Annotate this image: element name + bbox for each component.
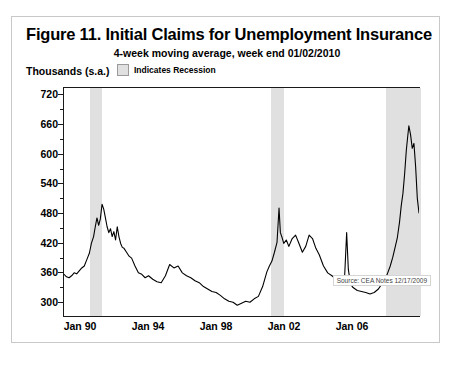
y-axis-tick-label: 300 [40, 296, 58, 308]
y-axis-tick-label: 720 [40, 88, 58, 100]
y-axis-tick-label: 420 [40, 237, 58, 249]
source-note: Source: CEA Notes 12/17/2009 [333, 275, 431, 286]
figure-frame: Figure 11. Initial Claims for Unemployme… [11, 16, 440, 343]
x-axis-tick-label: Jan 02 [268, 320, 301, 332]
figure-subtitle: 4-week moving average, week end 01/02/20… [26, 47, 428, 59]
x-axis-tick-label: Jan 90 [64, 320, 97, 332]
figure-title: Figure 11. Initial Claims for Unemployme… [26, 25, 428, 44]
y-axis-tick-label: 600 [40, 148, 58, 160]
y-axis-tick-labels: 300360420480540600660720 [12, 87, 58, 317]
x-axis-tick-labels: Jan 90Jan 94Jan 98Jan 02Jan 06 [63, 320, 420, 338]
y-axis-title: Thousands (s.a.) [26, 65, 109, 77]
x-axis-tick-label: Jan 98 [200, 320, 233, 332]
x-axis-tick-label: Jan 94 [132, 320, 165, 332]
y-axis-tick-label: 660 [40, 118, 58, 130]
legend-label: Indicates Recession [134, 65, 216, 75]
y-axis-tick-label: 480 [40, 207, 58, 219]
recession-swatch-icon [117, 64, 129, 76]
x-axis-tick-label: Jan 06 [336, 320, 369, 332]
legend: Indicates Recession [117, 64, 216, 76]
y-axis-tick-label: 360 [40, 266, 58, 278]
y-axis-tick-label: 540 [40, 177, 58, 189]
